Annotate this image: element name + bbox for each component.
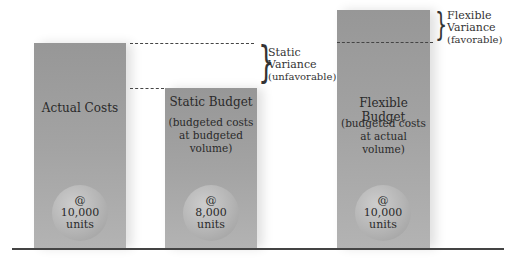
static-variance-line2: Variance <box>268 59 336 71</box>
flexible-variance-label: Flexible Variance (favorable) <box>447 10 502 46</box>
baseline-axis <box>12 248 504 250</box>
flexible-dashed-line <box>337 42 433 43</box>
flexible-variance-brace-icon: } <box>435 4 447 44</box>
static-budget-subtitle: (budgeted costs at budgeted volume) <box>165 116 257 155</box>
flexible-variance-line2: Variance <box>447 22 502 34</box>
units-label: units <box>183 219 239 231</box>
flexible-budget-subtitle: (budgeted costs at actual volume) <box>337 117 430 156</box>
static-variance-line3: (unfavorable) <box>268 71 336 83</box>
actual-top-dashed-line <box>130 43 254 44</box>
flexible-volume-circle: @ 10,000 units <box>355 185 411 241</box>
flexible-variance-line3: (favorable) <box>447 34 502 46</box>
flexible-budget-bar: Flexible Budget (budgeted costs at actua… <box>337 10 430 248</box>
static-volume-circle: @ 8,000 units <box>183 185 239 241</box>
actual-costs-bar: Actual Costs @ 10,000 units <box>34 43 126 248</box>
static-top-dashed-line <box>130 88 164 89</box>
units-label: units <box>355 219 411 231</box>
actual-volume-circle: @ 10,000 units <box>52 185 108 241</box>
units-label: units <box>52 219 108 231</box>
static-budget-bar: Static Budget (budgeted costs at budgete… <box>165 88 257 248</box>
static-variance-label: Static Variance (unfavorable) <box>268 47 336 83</box>
static-budget-title: Static Budget <box>165 95 257 109</box>
actual-costs-title: Actual Costs <box>34 101 126 115</box>
